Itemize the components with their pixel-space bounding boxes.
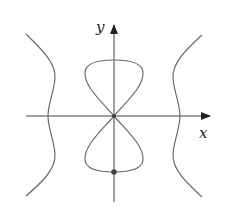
curve-figure xyxy=(0,0,228,213)
left-branch-curve xyxy=(26,34,55,196)
origin-point xyxy=(112,114,116,118)
marked-point xyxy=(111,169,117,175)
y-axis-label: y xyxy=(96,20,104,35)
x-axis-label: x xyxy=(199,126,207,141)
